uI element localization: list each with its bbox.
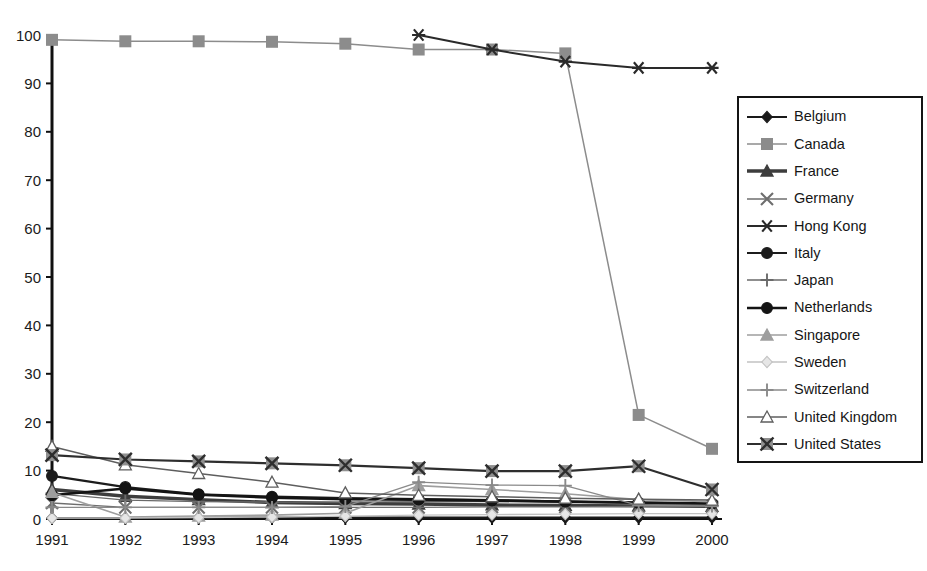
data-point-diamond-marker	[762, 357, 772, 368]
x-tick-label: 2000	[695, 531, 728, 548]
data-point-asterisk-marker	[632, 62, 645, 73]
legend-item-label: Hong Kong	[794, 219, 867, 234]
data-point-square-x-marker	[192, 455, 205, 468]
data-point-square-marker	[706, 443, 718, 455]
data-point-square-marker	[761, 138, 773, 150]
data-point-square-marker	[193, 35, 205, 47]
data-point-square-marker	[46, 34, 58, 46]
data-point-asterisk-marker	[760, 220, 773, 231]
line-chart: 0102030405060708090100199119921993199419…	[0, 0, 927, 571]
legend-swatch-triangle-open-icon	[745, 407, 789, 427]
marker-square	[193, 35, 205, 47]
data-point-square-marker	[119, 35, 131, 47]
series-united-kingdom	[46, 440, 718, 505]
data-point-circle-marker	[762, 248, 773, 259]
y-tick-label: 50	[24, 269, 41, 286]
marker-square	[266, 36, 278, 48]
legend-swatch-plus-icon	[745, 270, 789, 290]
legend-swatch-circle-icon	[745, 298, 789, 318]
legend-item-hong-kong[interactable]: Hong Kong	[739, 212, 921, 239]
data-point-square-x-marker	[632, 460, 645, 473]
marker-asterisk	[632, 62, 645, 73]
legend-swatch-square-x-icon	[745, 434, 789, 454]
legend-item-label: Japan	[794, 273, 834, 288]
data-point-square-marker	[266, 36, 278, 48]
x-tick-label: 1994	[255, 531, 288, 548]
legend-swatch-square-icon	[745, 134, 789, 154]
legend-item-germany[interactable]: Germany	[739, 185, 921, 212]
series-line	[52, 455, 712, 489]
marker-plus	[559, 479, 572, 492]
legend-item-label: United Kingdom	[794, 410, 897, 425]
data-point-square-x-marker	[761, 438, 774, 451]
legend-item-belgium[interactable]: Belgium	[739, 103, 921, 130]
marker-plus	[761, 383, 774, 396]
x-tick-label: 1992	[109, 531, 142, 548]
legend-item-france[interactable]: France	[739, 158, 921, 185]
data-point-diamond-marker	[762, 111, 772, 122]
y-tick-label: 30	[24, 365, 41, 382]
legend-item-singapore[interactable]: Singapore	[739, 321, 921, 348]
legend-item-united-states[interactable]: United States	[739, 431, 921, 458]
y-tick-label: 80	[24, 123, 41, 140]
data-point-square-marker	[339, 38, 351, 50]
legend-item-japan[interactable]: Japan	[739, 267, 921, 294]
x-tick-label: 1998	[549, 531, 582, 548]
data-point-square-x-marker	[412, 462, 425, 475]
marker-asterisk	[705, 62, 718, 73]
x-tick-label: 1995	[329, 531, 362, 548]
marker-diamond	[762, 357, 772, 368]
data-point-asterisk-marker	[705, 62, 718, 73]
legend-item-label: France	[794, 164, 839, 179]
marker-circle	[120, 483, 131, 494]
marker-square	[46, 34, 58, 46]
y-tick-label: 10	[24, 462, 41, 479]
data-point-square-x-marker	[46, 449, 59, 462]
legend-item-label: Sweden	[794, 355, 846, 370]
legend-item-switzerland[interactable]: Switzerland	[739, 376, 921, 403]
plot-svg: 0102030405060708090100199119921993199419…	[0, 0, 740, 571]
data-point-square-x-marker	[559, 465, 572, 478]
legend-swatch-diamond-icon	[745, 107, 789, 127]
data-point-square-x-marker	[706, 483, 719, 496]
y-tick-label: 40	[24, 317, 41, 334]
series-line	[52, 446, 712, 500]
marker-square	[633, 409, 645, 421]
data-point-square-x-marker	[266, 457, 279, 470]
data-point-circle-marker	[193, 489, 204, 500]
data-point-circle-marker	[762, 302, 773, 313]
marker-plus	[761, 274, 774, 287]
marker-square	[706, 443, 718, 455]
marker-diamond	[47, 512, 57, 523]
y-tick-label: 0	[33, 511, 41, 528]
legend-swatch-plus-icon	[745, 380, 789, 400]
x-tick-label: 1999	[622, 531, 655, 548]
legend-item-netherlands[interactable]: Netherlands	[739, 294, 921, 321]
y-tick-label: 100	[16, 27, 41, 44]
legend-item-united-kingdom[interactable]: United Kingdom	[739, 403, 921, 430]
marker-diamond	[762, 111, 772, 122]
marker-circle	[762, 302, 773, 313]
series-sweden	[47, 508, 717, 524]
legend-item-canada[interactable]: Canada	[739, 130, 921, 157]
x-tick-label: 1997	[475, 531, 508, 548]
axes-group	[52, 35, 722, 519]
legend-item-label: Netherlands	[794, 300, 872, 315]
legend-item-sweden[interactable]: Sweden	[739, 349, 921, 376]
legend-item-label: United States	[794, 437, 881, 452]
data-point-diamond-marker	[47, 512, 57, 523]
legend-item-italy[interactable]: Italy	[739, 239, 921, 266]
legend-swatch-asterisk-icon	[745, 216, 789, 236]
legend-swatch-diamond-icon	[745, 352, 789, 372]
y-tick-label: 20	[24, 414, 41, 431]
marker-asterisk	[412, 29, 425, 40]
series-line	[52, 40, 712, 449]
marker-square	[119, 35, 131, 47]
data-point-circle-marker	[120, 483, 131, 494]
chart-legend: BelgiumCanadaFranceGermanyHong KongItaly…	[737, 96, 923, 463]
x-tick-group: 1991199219931994199519961997199819992000	[35, 519, 728, 548]
data-point-square-x-marker	[339, 459, 352, 472]
data-point-square-marker	[633, 409, 645, 421]
legend-swatch-circle-icon	[745, 243, 789, 263]
marker-circle	[47, 471, 58, 482]
